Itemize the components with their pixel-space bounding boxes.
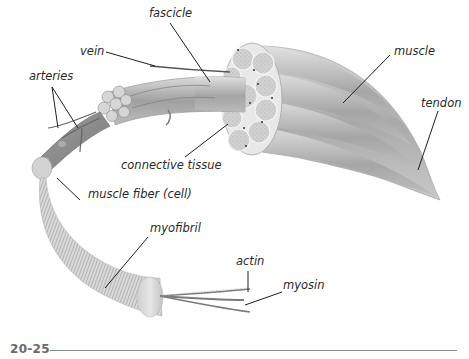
label-arteries: arteries xyxy=(29,71,73,83)
muscle-body xyxy=(262,46,440,200)
label-actin: actin xyxy=(236,256,264,268)
label-muscle: muscle xyxy=(394,46,435,58)
label-tendon: tendon xyxy=(421,98,462,110)
label-muscle-fiber: muscle fiber (cell) xyxy=(88,189,192,201)
muscle-fiber xyxy=(32,112,110,179)
label-fascicle: fascicle xyxy=(149,8,192,20)
label-myosin: myosin xyxy=(283,280,325,292)
label-myofibril: myofibril xyxy=(150,223,201,235)
filaments xyxy=(160,288,250,312)
label-vein: vein xyxy=(80,46,104,58)
label-connective-tissue: connective tissue xyxy=(121,160,222,172)
figure-divider xyxy=(50,350,457,351)
figure-number: 20-25 xyxy=(10,343,50,355)
vein xyxy=(150,66,230,72)
